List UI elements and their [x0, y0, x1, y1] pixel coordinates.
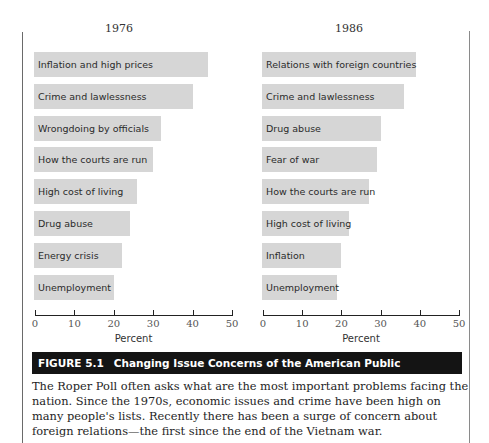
figure-title-banner: FIGURE 5.1Changing Issue Concerns of the… — [32, 352, 462, 374]
x-tick — [381, 310, 382, 316]
x-tick — [420, 310, 421, 316]
bar: How the courts are run — [262, 179, 369, 204]
x-tick-label: 50 — [226, 318, 239, 329]
x-tick-label: 40 — [186, 318, 199, 329]
bar: How the courts are run — [34, 147, 153, 172]
x-tick — [302, 310, 303, 316]
x-tick — [263, 310, 264, 316]
x-axis — [263, 315, 459, 316]
figure-number: FIGURE 5.1 — [38, 357, 104, 369]
left-border-rule — [22, 32, 23, 443]
x-tick-label: 30 — [374, 318, 387, 329]
bar: Inflation and high prices — [34, 52, 208, 77]
bar: Inflation — [262, 243, 341, 268]
bar: Unemployment — [34, 275, 114, 300]
x-tick-label: 20 — [107, 318, 120, 329]
chart-title-year: 1976 — [105, 22, 133, 35]
x-tick-label: 10 — [68, 318, 81, 329]
bar: Drug abuse — [262, 116, 381, 141]
bar: Wrongdoing by officials — [34, 116, 161, 141]
bar: Crime and lawlessness — [34, 84, 193, 109]
figure-caption: The Roper Poll often asks what are the m… — [32, 379, 472, 439]
x-tick — [35, 310, 36, 316]
x-tick-label: 10 — [296, 318, 309, 329]
x-axis-label: Percent — [115, 333, 153, 344]
x-tick — [114, 310, 115, 316]
bar: High cost of living — [262, 211, 349, 236]
x-axis — [35, 315, 232, 316]
x-tick-label: 40 — [413, 318, 426, 329]
x-tick-label: 0 — [32, 318, 38, 329]
x-tick — [459, 310, 460, 316]
x-tick-label: 30 — [147, 318, 160, 329]
chart-title-year: 1986 — [335, 22, 363, 35]
bar: Energy crisis — [34, 243, 122, 268]
bar: Drug abuse — [34, 211, 130, 236]
x-tick-label: 20 — [335, 318, 348, 329]
x-tick — [341, 310, 342, 316]
x-axis-label: Percent — [342, 333, 380, 344]
x-tick-label: 50 — [453, 318, 466, 329]
bar: Crime and lawlessness — [262, 84, 404, 109]
bar: High cost of living — [34, 179, 137, 204]
bar: Fear of war — [262, 147, 377, 172]
x-tick — [232, 310, 233, 316]
figure-title: Changing Issue Concerns of the American … — [114, 357, 401, 369]
x-tick — [74, 310, 75, 316]
bar: Relations with foreign countries — [262, 52, 416, 77]
x-tick-label: 0 — [260, 318, 266, 329]
x-tick — [153, 310, 154, 316]
bar: Unemployment — [262, 275, 337, 300]
x-tick — [193, 310, 194, 316]
